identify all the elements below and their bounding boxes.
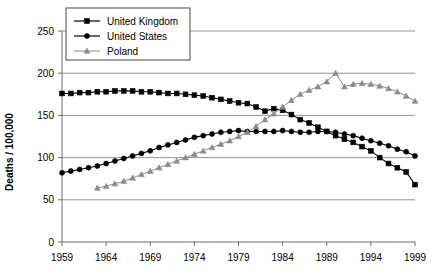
data-point-1-13 [174, 140, 179, 145]
data-point-0-5 [104, 89, 109, 94]
data-point-0-28 [307, 121, 312, 126]
data-point-1-31 [333, 130, 338, 135]
data-point-1-34 [360, 136, 365, 141]
data-point-1-3 [86, 165, 91, 170]
data-point-2-35 [403, 93, 409, 98]
data-point-0-14 [183, 92, 188, 97]
data-point-0-3 [86, 90, 91, 95]
data-point-1-33 [351, 133, 356, 138]
data-point-1-19 [227, 129, 232, 134]
data-point-1-32 [342, 131, 347, 136]
data-point-1-12 [165, 142, 170, 147]
legend-circle-marker-1 [85, 34, 90, 39]
y-tick-label-50: 50 [43, 194, 55, 205]
data-point-0-2 [77, 90, 82, 95]
data-point-1-1 [68, 169, 73, 174]
data-point-0-21 [245, 101, 250, 106]
data-point-0-11 [157, 90, 162, 95]
data-point-1-27 [298, 130, 303, 135]
x-tick-label-1974: 1974 [183, 252, 206, 263]
data-point-1-16 [201, 133, 206, 138]
chart-container: 0501001502002501959196419691974197919841… [0, 0, 437, 277]
data-point-0-22 [254, 105, 259, 110]
data-point-1-8 [130, 153, 135, 158]
data-point-0-10 [148, 89, 153, 94]
data-point-1-7 [121, 156, 126, 161]
data-point-1-11 [157, 145, 162, 150]
data-point-1-24 [271, 129, 276, 134]
data-point-0-32 [342, 137, 347, 142]
legend-label-0: United Kingdom [107, 16, 178, 27]
data-point-0-8 [130, 89, 135, 94]
data-point-0-27 [298, 117, 303, 122]
data-point-0-13 [174, 91, 179, 96]
x-tick-label-1979: 1979 [227, 252, 250, 263]
data-point-1-14 [183, 137, 188, 142]
data-point-1-18 [218, 130, 223, 135]
data-point-0-35 [368, 148, 373, 153]
legend: United KingdomUnited StatesPoland [66, 8, 190, 60]
data-point-0-17 [210, 95, 215, 100]
y-tick-label-0: 0 [48, 237, 54, 248]
data-point-1-10 [148, 148, 153, 153]
y-tick-label-100: 100 [37, 152, 54, 163]
data-point-2-36 [412, 98, 418, 103]
data-point-0-34 [360, 144, 365, 149]
x-tick-label-1994: 1994 [360, 252, 383, 263]
data-point-0-12 [166, 91, 171, 96]
data-point-1-20 [236, 128, 241, 133]
x-tick-label-1989: 1989 [316, 252, 339, 263]
data-point-1-9 [139, 151, 144, 156]
legend-label-2: Poland [107, 46, 138, 57]
y-axis-label: Deaths / 100,000 [4, 113, 15, 191]
data-point-1-0 [60, 170, 65, 175]
y-tick-label-150: 150 [37, 110, 54, 121]
data-point-0-9 [139, 89, 144, 94]
data-point-0-4 [95, 89, 100, 94]
data-point-1-22 [254, 129, 259, 134]
data-point-0-33 [351, 140, 356, 145]
data-point-1-29 [315, 129, 320, 134]
legend-square-marker-0 [85, 19, 90, 24]
data-point-0-0 [60, 91, 65, 96]
data-point-1-6 [112, 158, 117, 163]
x-tick-label-1969: 1969 [139, 252, 162, 263]
data-point-0-16 [201, 94, 206, 99]
data-point-1-2 [77, 167, 82, 172]
data-point-2-16 [236, 134, 242, 139]
data-point-1-26 [289, 129, 294, 134]
data-point-2-19 [262, 117, 268, 122]
data-point-1-40 [413, 153, 418, 158]
data-point-0-7 [121, 89, 126, 94]
data-point-1-38 [395, 147, 400, 152]
data-point-0-19 [227, 99, 232, 104]
data-point-0-18 [218, 97, 223, 102]
data-point-1-28 [307, 130, 312, 135]
x-tick-label-1984: 1984 [272, 252, 295, 263]
data-point-1-23 [262, 129, 267, 134]
data-point-0-40 [413, 182, 418, 187]
y-tick-label-200: 200 [37, 68, 54, 79]
x-tick-label-1964: 1964 [95, 252, 118, 263]
data-point-1-30 [324, 129, 329, 134]
data-point-1-25 [280, 128, 285, 133]
legend-label-1: United States [107, 31, 167, 42]
data-point-0-20 [236, 100, 241, 105]
line-chart: 0501001502002501959196419691974197919841… [0, 0, 437, 277]
data-point-2-23 [297, 91, 303, 96]
data-point-1-35 [368, 138, 373, 143]
data-point-2-15 [227, 138, 233, 143]
data-point-0-38 [395, 165, 400, 170]
x-tick-label-1959: 1959 [51, 252, 74, 263]
data-point-0-6 [113, 89, 118, 94]
data-point-0-23 [263, 109, 268, 114]
data-point-0-26 [289, 112, 294, 117]
data-point-0-37 [386, 161, 391, 166]
x-tick-label-1999: 1999 [404, 252, 427, 263]
data-point-0-39 [404, 170, 409, 175]
data-point-2-22 [289, 97, 295, 102]
data-point-1-17 [210, 131, 215, 136]
data-point-0-15 [192, 93, 197, 98]
data-point-1-5 [104, 161, 109, 166]
data-point-1-15 [192, 135, 197, 140]
